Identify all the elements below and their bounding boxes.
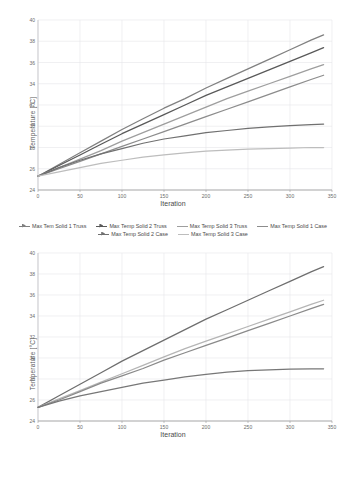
plot-svg-bottom [0,245,346,440]
x-tick-label: 150 [160,193,168,199]
y-tick-label: 40 [29,17,35,23]
y-tick-label: 40 [29,250,35,256]
x-tick-label: 250 [244,424,252,430]
x-tick-label: 100 [118,193,126,199]
legend-arrow-icon [96,223,107,229]
legend-item: Max Temp Solid 2 Case [98,230,168,238]
legend-item: Max Temp Solid 1 Case [257,222,327,230]
chart-bottom: Temperature [°C] 24262830323436384005010… [0,245,346,482]
chart-top: Temperature [°C] 24262830323436384005010… [0,0,346,245]
plot-area-bottom: 242628303234363840050100150200250300350 [0,245,346,440]
x-tick-label: 100 [118,424,126,430]
y-tick-label: 24 [29,418,35,424]
legend-line-icon [257,223,268,229]
legend-arrow-icon [98,231,109,237]
y-tick-label: 26 [29,166,35,172]
x-axis-label-top: Iteration [0,200,346,207]
y-tick-label: 30 [29,355,35,361]
legend-item: Max Temp Solid 3 Truss [177,222,247,230]
legend-label: Max Temp Solid 2 Truss [109,222,166,230]
legend-label: Max Temp Solid 2 Case [111,230,168,238]
y-tick-label: 24 [29,187,35,193]
y-tick-label: 26 [29,397,35,403]
legend-label: Max Tem Solid 1 Truss [32,222,86,230]
plot-svg-top [0,0,346,210]
x-axis-label-bottom: Iteration [0,431,346,438]
y-tick-label: 28 [29,145,35,151]
x-tick-label: 350 [328,424,336,430]
y-tick-label: 38 [29,271,35,277]
figure-page: Temperature [°C] 24262830323436384005010… [0,0,346,482]
x-tick-label: 200 [202,424,210,430]
x-tick-label: 50 [77,193,83,199]
y-tick-label: 34 [29,313,35,319]
legend-label: Max Temp Solid 3 Case [191,230,248,238]
legend-arrow-icon [19,223,30,229]
plot-area-top: 242628303234363840050100150200250300350 [0,0,346,210]
legend-item: Max Tem Solid 1 Truss [19,222,86,230]
y-tick-label: 28 [29,376,35,382]
x-tick-label: 150 [160,424,168,430]
legend-line-icon [178,231,189,237]
x-tick-label: 0 [37,193,40,199]
legend-item: Max Temp Solid 3 Case [178,230,248,238]
y-tick-label: 38 [29,38,35,44]
y-tick-label: 32 [29,334,35,340]
x-tick-label: 350 [328,193,336,199]
x-tick-label: 50 [77,424,83,430]
x-tick-label: 300 [286,424,294,430]
y-tick-label: 36 [29,292,35,298]
y-tick-label: 32 [29,102,35,108]
y-tick-label: 36 [29,60,35,66]
legend-top: Max Tem Solid 1 TrussMax Temp Solid 2 Tr… [0,222,346,238]
y-tick-label: 30 [29,123,35,129]
legend-item: Max Temp Solid 2 Truss [96,222,166,230]
x-tick-label: 300 [286,193,294,199]
x-tick-label: 200 [202,193,210,199]
x-tick-label: 250 [244,193,252,199]
x-tick-label: 0 [37,424,40,430]
legend-label: Max Temp Solid 3 Truss [190,222,247,230]
legend-line-icon [177,223,188,229]
legend-label: Max Temp Solid 1 Case [270,222,327,230]
y-tick-label: 34 [29,81,35,87]
